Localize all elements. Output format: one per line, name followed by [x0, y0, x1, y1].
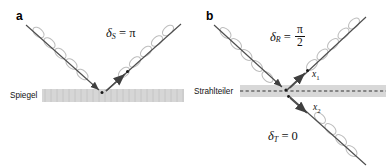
mirror-label: Spiegel: [10, 92, 37, 100]
mirror-surface: [42, 89, 184, 102]
formula-delta-s: δS = π: [106, 27, 135, 41]
delta-subscript-s: S: [112, 32, 116, 41]
formula-delta-t: δT = 0: [268, 130, 298, 144]
formula-delta-r: δR = π 2: [270, 24, 306, 49]
panel-b: b: [194, 0, 388, 167]
equals-sign-b2: =: [281, 129, 288, 143]
point-x1-label: x1: [312, 70, 320, 82]
equals-sign-b1: =: [284, 30, 291, 44]
delta-subscript-r: R: [276, 35, 281, 44]
figure-canvas: a: [0, 0, 388, 167]
panel-b-transmitted-ray: [287, 95, 366, 165]
delta-t-value: 0: [292, 129, 298, 143]
delta-s-value: π: [129, 26, 135, 40]
fraction-denominator: 2: [295, 36, 305, 49]
beamsplitter-surface: [240, 85, 386, 97]
delta-subscript-t: T: [274, 135, 278, 144]
equals-sign-a: =: [119, 26, 126, 40]
reflection-point: [101, 91, 104, 94]
fraction-numerator: π: [295, 24, 305, 36]
point-x2-label: x2: [313, 103, 321, 115]
panel-a-graphics: [0, 0, 194, 167]
panel-a: a: [0, 0, 194, 167]
panel-a-incident-ray: [26, 25, 99, 90]
fraction-pi-over-2: π 2: [295, 24, 305, 49]
beamsplitter-label: Strahlteiler: [194, 88, 233, 96]
